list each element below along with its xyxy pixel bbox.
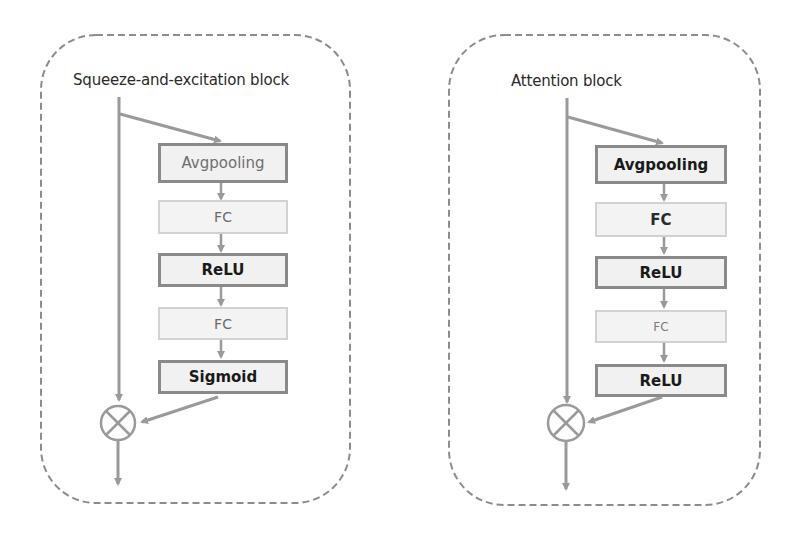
se-gate-arrow: [142, 397, 218, 422]
attention-block-title: Attention block: [511, 72, 622, 90]
se-avgpooling-node: Avgpooling: [158, 143, 288, 183]
attention-fc2-node: FC: [595, 310, 727, 343]
se-multiply-icon: [101, 406, 135, 440]
se-fc2-node: FC: [158, 307, 288, 340]
attention-multiply-icon: [548, 405, 584, 441]
se-sigmoid-node: Sigmoid: [158, 360, 288, 394]
se-branch-arrow: [120, 114, 220, 141]
attention-relu1-node: ReLU: [595, 256, 727, 289]
se-block-title: Squeeze-and-excitation block: [73, 71, 289, 89]
attention-relu2-node: ReLU: [595, 364, 727, 397]
attention-avgpooling-node: Avgpooling: [595, 145, 727, 184]
attention-gate-arrow: [589, 397, 662, 422]
diagram-canvas: Squeeze-and-excitation block Avgpooling …: [0, 0, 794, 535]
se-relu-node: ReLU: [158, 253, 288, 287]
attention-branch-arrow: [568, 117, 662, 143]
attention-fc1-node: FC: [595, 202, 727, 237]
se-fc1-node: FC: [158, 200, 288, 234]
